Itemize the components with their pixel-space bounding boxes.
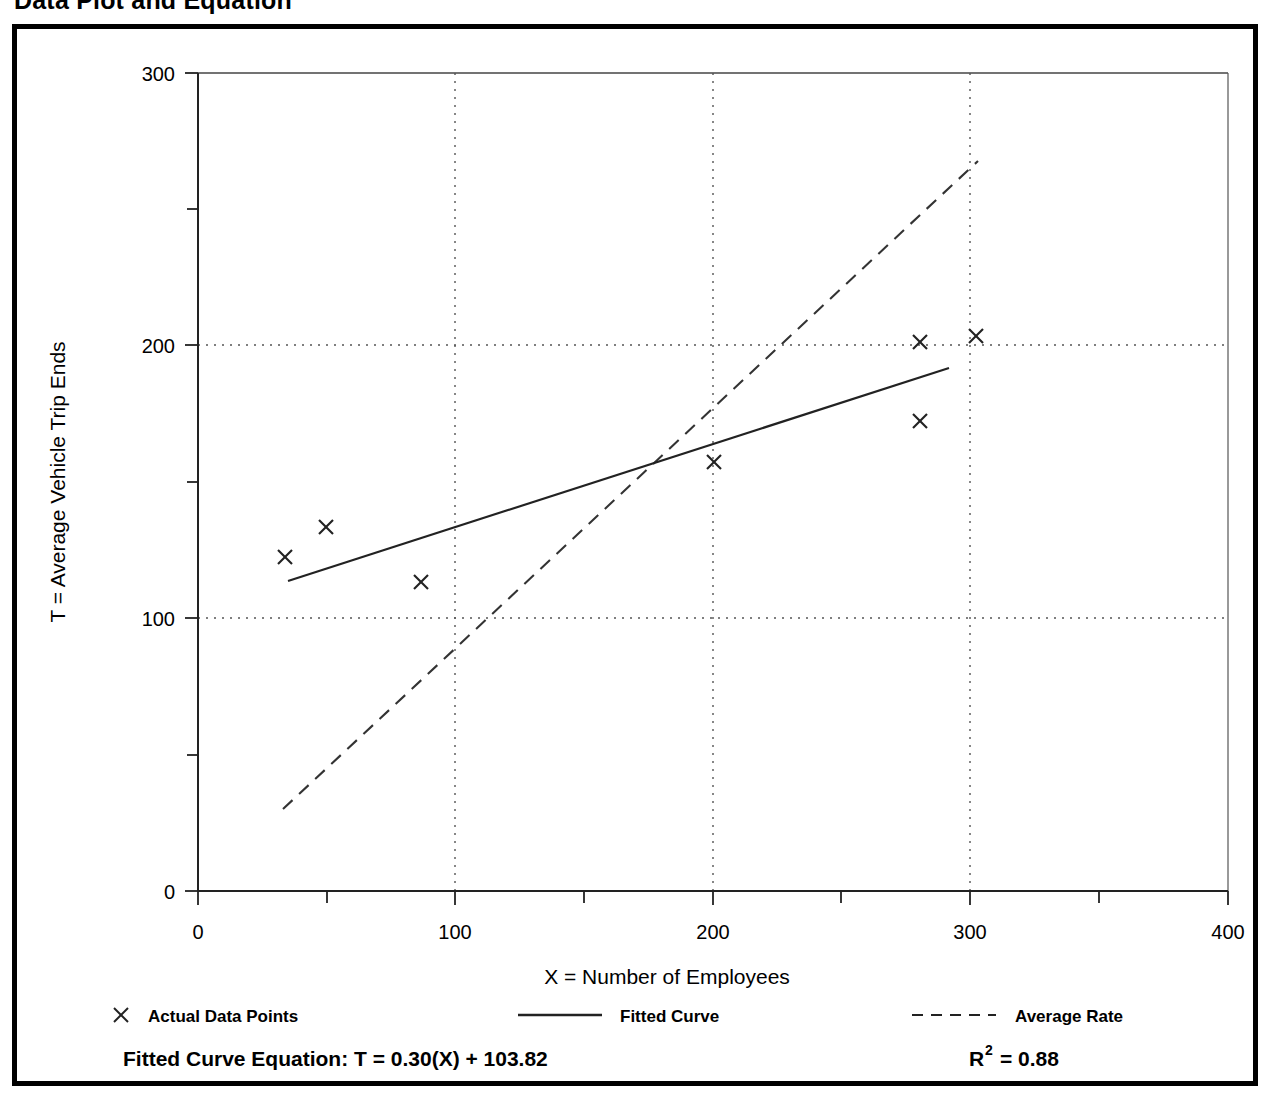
- x-tick-label-200: 200: [696, 921, 729, 943]
- page-title: Data Plot and Equation: [14, 0, 292, 15]
- x-tick-label-400: 400: [1211, 921, 1244, 943]
- x-axis-title: X = Number of Employees: [544, 965, 790, 988]
- legend-label-fitted-curve: Fitted Curve: [620, 1007, 719, 1026]
- legend-item-actual-data-points: Actual Data Points: [114, 1007, 298, 1026]
- x-marker-icon: [114, 1008, 128, 1022]
- equation-label: Fitted Curve Equation:: [123, 1047, 348, 1070]
- y-tick-label-100: 100: [142, 608, 175, 630]
- r-squared-exponent: 2: [985, 1042, 993, 1058]
- r-squared-value: = 0.88: [1000, 1047, 1059, 1070]
- legend-label-actual-data-points: Actual Data Points: [148, 1007, 298, 1026]
- x-axis-ticks: [198, 891, 1228, 905]
- x-tick-label-0: 0: [192, 921, 203, 943]
- y-tick-label-0: 0: [164, 881, 175, 903]
- equation-value: T = 0.30(X) + 103.82: [354, 1047, 548, 1070]
- legend-item-fitted-curve: Fitted Curve: [518, 1007, 719, 1026]
- chart-canvas: 300 200 100 0 0 100 200 300 400 T = Aver…: [17, 29, 1253, 1081]
- x-tick-label-100: 100: [438, 921, 471, 943]
- y-tick-label-300: 300: [142, 63, 175, 85]
- figure-frame: 300 200 100 0 0 100 200 300 400 T = Aver…: [12, 24, 1258, 1086]
- footer-equation-row: Fitted Curve Equation: T = 0.30(X) + 103…: [123, 1042, 1059, 1070]
- y-axis-title: T = Average Vehicle Trip Ends: [46, 341, 69, 622]
- chart-legend: Actual Data Points Fitted Curve Average …: [114, 1007, 1123, 1026]
- r-squared-label: R: [969, 1047, 984, 1070]
- y-tick-label-200: 200: [142, 335, 175, 357]
- legend-label-average-rate: Average Rate: [1015, 1007, 1123, 1026]
- y-axis-ticks: [185, 73, 198, 891]
- x-tick-label-300: 300: [953, 921, 986, 943]
- legend-item-average-rate: Average Rate: [912, 1007, 1123, 1026]
